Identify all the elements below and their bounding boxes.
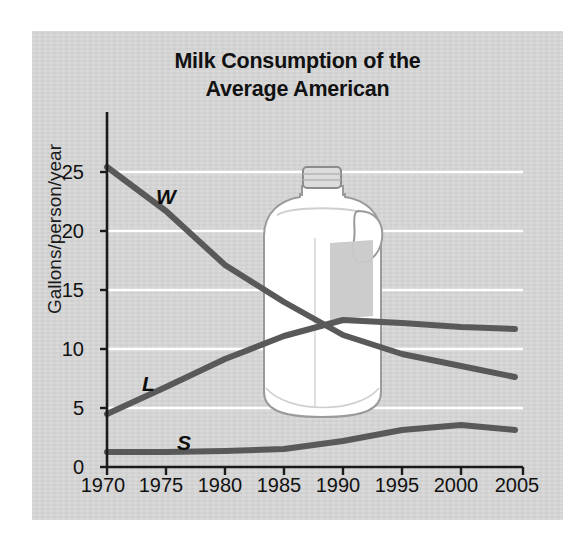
series-label-w: W — [156, 185, 176, 209]
milk-jug-label-patch — [330, 240, 373, 320]
series-label-s: S — [177, 431, 191, 455]
series-label-l: L — [142, 372, 155, 396]
milk-jug-icon — [264, 167, 382, 417]
chart-figure: Milk Consumption of the Average American… — [0, 0, 584, 557]
milk-jug-cap-icon — [303, 167, 341, 188]
series-line-s — [107, 425, 515, 452]
chart-plot-area — [0, 0, 584, 557]
